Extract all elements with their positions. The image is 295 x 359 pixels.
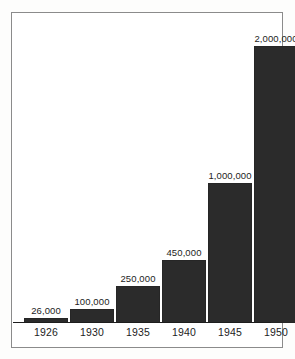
bar-group-1935: 250,000 — [116, 13, 160, 323]
plot-area: 26,000 100,000 250,000 450,000 1,000,000… — [13, 13, 281, 323]
bar-value-label: 250,000 — [120, 274, 155, 284]
bar-value-label: 450,000 — [166, 248, 201, 258]
x-tick-label-1945: 1945 — [218, 325, 242, 339]
bar-chart-figure: 26,000 100,000 250,000 450,000 1,000,000… — [0, 0, 295, 359]
bar-rect — [116, 286, 160, 323]
bar-group-1926: 26,000 — [24, 13, 68, 323]
x-axis-tick-labels: 1926 1930 1935 1940 1945 1950 — [13, 325, 281, 341]
x-tick-label-1935: 1935 — [126, 325, 150, 339]
x-tick-label-1930: 1930 — [80, 325, 104, 339]
bar-rect — [70, 309, 114, 323]
bar-rect — [208, 183, 252, 323]
bar-rect — [162, 260, 206, 323]
x-tick-label-1940: 1940 — [172, 325, 196, 339]
bar-group-1950: 2,000,000 — [254, 13, 295, 323]
bar-group-1945: 1,000,000 — [208, 13, 252, 323]
bar-value-label: 2,000,000 — [254, 34, 295, 44]
bar-value-label: 1,000,000 — [208, 171, 251, 181]
x-tick-label-1950: 1950 — [264, 325, 288, 339]
bar-group-1940: 450,000 — [162, 13, 206, 323]
x-axis-baseline — [13, 322, 271, 323]
bar-group-1930: 100,000 — [70, 13, 114, 323]
bar-value-label: 26,000 — [31, 306, 61, 316]
bar-rect — [254, 46, 295, 323]
x-tick-label-1926: 1926 — [34, 325, 58, 339]
bar-value-label: 100,000 — [74, 297, 109, 307]
